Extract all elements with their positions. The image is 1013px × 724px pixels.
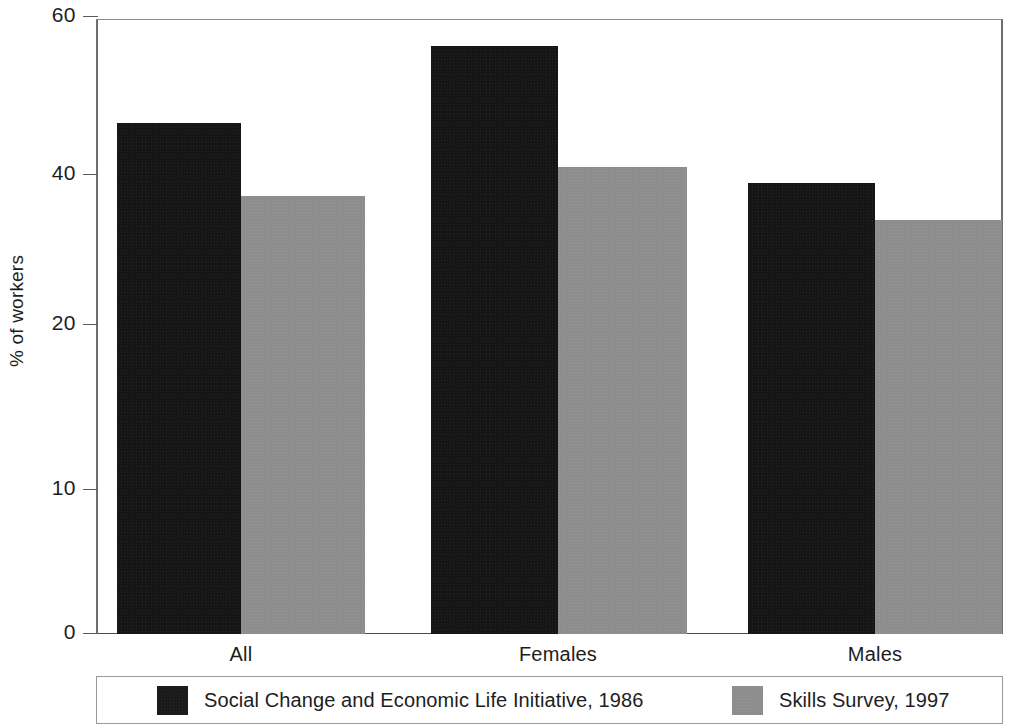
bar [558, 167, 687, 634]
y-axis-tick-mark [83, 324, 98, 325]
bar-chart: % of workers 604020100 AllFemalesMales S… [0, 0, 1013, 724]
legend-swatch-icon [732, 686, 763, 715]
bar [117, 123, 241, 634]
legend-label: Skills Survey, 1997 [779, 689, 950, 712]
legend-label: Social Change and Economic Life Initiati… [204, 689, 644, 712]
legend-entry[interactable]: Skills Survey, 1997 [732, 686, 950, 715]
y-axis-tick-label: 60 [0, 3, 76, 27]
y-axis-tick-label: 20 [0, 311, 76, 335]
y-axis-tick-label: 10 [0, 476, 76, 500]
x-axis-category-label: Males [775, 643, 975, 666]
y-axis-tick-mark [83, 489, 98, 490]
legend-entry[interactable]: Social Change and Economic Life Initiati… [157, 686, 644, 715]
y-axis-tick-mark [83, 16, 98, 17]
y-axis-tick-label: 0 [0, 620, 76, 644]
bar [875, 220, 1002, 634]
bar [241, 196, 365, 634]
legend-swatch-icon [157, 686, 188, 715]
chart-legend: Social Change and Economic Life Initiati… [96, 676, 1003, 724]
x-axis-category-label: Females [458, 643, 658, 666]
y-axis-tick-label: 40 [0, 161, 76, 185]
bar [431, 46, 558, 634]
y-axis-tick-mark [83, 633, 98, 634]
chart-title-clipped [0, 0, 1013, 3]
y-axis-tick-mark [83, 174, 98, 175]
bar [748, 183, 875, 634]
x-axis-category-label: All [141, 643, 341, 666]
